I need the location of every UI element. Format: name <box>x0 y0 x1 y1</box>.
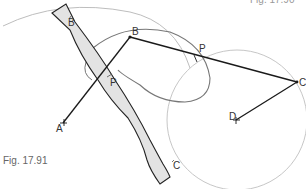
label-b-on-link: B <box>68 17 75 28</box>
mechanism-diagram: Fig. 17.90 B B P P C C A D Fig. 17.91 <box>0 0 306 189</box>
point-p-tick <box>194 55 197 62</box>
line-c-d <box>236 82 297 120</box>
label-c-point: C <box>299 77 306 88</box>
label-d-point: D <box>229 111 236 122</box>
point-c-marker <box>296 81 299 84</box>
label-p-on-link: P <box>110 77 117 88</box>
label-p-point: P <box>199 43 206 54</box>
caption-top: Fig. 17.90 <box>250 0 295 5</box>
label-b-point: B <box>132 26 139 37</box>
label-c-on-link: C <box>173 160 180 171</box>
caption-bottom: Fig. 17.91 <box>3 155 48 166</box>
label-a-point: A <box>56 123 63 134</box>
